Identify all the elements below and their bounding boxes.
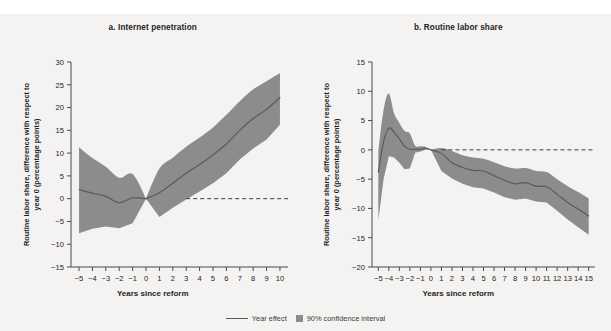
panel-a-plot: −15−10−5051015202530−5−4−3−2−10123456789… xyxy=(0,14,305,331)
svg-text:12: 12 xyxy=(552,274,560,283)
svg-text:−5: −5 xyxy=(373,274,382,283)
legend-band-swatch-icon xyxy=(296,315,303,322)
svg-text:1: 1 xyxy=(157,274,161,283)
panel-b-x-axis-label: Years since reform xyxy=(306,289,611,298)
svg-text:−1: −1 xyxy=(416,274,425,283)
svg-text:0: 0 xyxy=(428,274,432,283)
svg-text:10: 10 xyxy=(531,274,539,283)
svg-text:6: 6 xyxy=(491,274,495,283)
svg-text:10: 10 xyxy=(356,87,364,96)
svg-text:4: 4 xyxy=(470,274,474,283)
svg-text:13: 13 xyxy=(563,274,571,283)
svg-text:30: 30 xyxy=(56,58,64,67)
svg-text:−4: −4 xyxy=(88,274,97,283)
svg-text:0: 0 xyxy=(360,146,364,155)
figure-container: a. Internet penetration Routine labor sh… xyxy=(0,0,611,331)
svg-text:8: 8 xyxy=(512,274,516,283)
svg-text:10: 10 xyxy=(56,149,64,158)
svg-text:15: 15 xyxy=(356,58,364,67)
figure-top-margin xyxy=(0,0,611,14)
svg-text:25: 25 xyxy=(56,81,64,90)
svg-text:6: 6 xyxy=(224,274,228,283)
svg-text:−2: −2 xyxy=(405,274,414,283)
svg-text:14: 14 xyxy=(573,274,581,283)
chart-legend: Year effect 90% confidence interval xyxy=(0,314,611,323)
panels-row: a. Internet penetration Routine labor sh… xyxy=(0,14,611,331)
legend-item-year-effect: Year effect xyxy=(226,314,287,323)
svg-text:−1: −1 xyxy=(128,274,137,283)
svg-text:−10: −10 xyxy=(51,240,64,249)
svg-text:−15: −15 xyxy=(352,234,365,243)
svg-text:15: 15 xyxy=(56,126,64,135)
svg-text:−5: −5 xyxy=(55,217,64,226)
svg-text:3: 3 xyxy=(460,274,464,283)
svg-text:−5: −5 xyxy=(356,175,365,184)
svg-text:5: 5 xyxy=(60,172,64,181)
svg-text:−15: −15 xyxy=(51,263,64,272)
legend-label-year-effect: Year effect xyxy=(252,314,287,323)
svg-text:9: 9 xyxy=(264,274,268,283)
svg-text:1: 1 xyxy=(439,274,443,283)
svg-text:11: 11 xyxy=(542,274,550,283)
svg-text:−10: −10 xyxy=(352,204,365,213)
svg-text:3: 3 xyxy=(184,274,188,283)
svg-text:7: 7 xyxy=(502,274,506,283)
svg-text:4: 4 xyxy=(197,274,201,283)
svg-text:20: 20 xyxy=(56,103,64,112)
svg-text:−3: −3 xyxy=(395,274,404,283)
panel-a-x-axis-label: Years since reform xyxy=(0,289,306,298)
svg-text:9: 9 xyxy=(523,274,527,283)
legend-item-confidence-interval: 90% confidence interval xyxy=(296,314,385,323)
legend-line-swatch-icon xyxy=(226,318,248,320)
svg-text:−2: −2 xyxy=(115,274,124,283)
svg-text:5: 5 xyxy=(360,116,364,125)
svg-text:8: 8 xyxy=(251,274,255,283)
panel-b-plot: −20−15−10−5051015−5−4−3−2−10123456789101… xyxy=(306,14,611,331)
svg-text:15: 15 xyxy=(584,274,592,283)
panel-b: b. Routine labor share Routine labor sha… xyxy=(306,14,611,331)
svg-text:7: 7 xyxy=(238,274,242,283)
svg-text:−5: −5 xyxy=(75,274,84,283)
svg-text:2: 2 xyxy=(449,274,453,283)
svg-text:−3: −3 xyxy=(101,274,110,283)
svg-text:10: 10 xyxy=(276,274,284,283)
svg-text:5: 5 xyxy=(211,274,215,283)
svg-text:2: 2 xyxy=(171,274,175,283)
legend-label-confidence-interval: 90% confidence interval xyxy=(307,314,385,323)
svg-text:0: 0 xyxy=(144,274,148,283)
svg-text:−20: −20 xyxy=(352,263,365,272)
svg-text:0: 0 xyxy=(60,194,64,203)
panel-a: a. Internet penetration Routine labor sh… xyxy=(0,14,306,331)
svg-text:5: 5 xyxy=(481,274,485,283)
svg-text:−4: −4 xyxy=(384,274,393,283)
